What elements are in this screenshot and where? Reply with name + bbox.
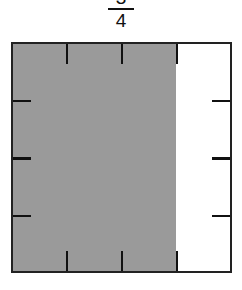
left-tick-1 — [13, 100, 31, 102]
bottom-tick-2 — [121, 251, 123, 271]
right-tick-1 — [212, 100, 230, 102]
bottom-tick-3 — [176, 251, 178, 271]
right-tick-3 — [212, 215, 230, 217]
fraction-square — [11, 42, 232, 273]
top-tick-1 — [66, 44, 68, 64]
left-tick-2 — [13, 157, 31, 160]
shaded-region — [13, 44, 176, 271]
left-tick-3 — [13, 215, 31, 217]
fraction-label: 3 4 — [104, 0, 138, 30]
top-tick-2 — [121, 44, 123, 64]
right-tick-2 — [212, 157, 230, 160]
bottom-tick-1 — [66, 251, 68, 271]
top-tick-3 — [176, 44, 178, 64]
fraction-numerator: 3 — [104, 0, 138, 7]
fraction-denominator: 4 — [104, 11, 138, 30]
